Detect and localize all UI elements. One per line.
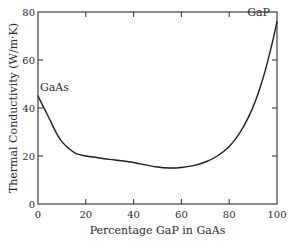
data-curve	[38, 22, 277, 168]
annotation-gap: GaP	[247, 6, 270, 19]
x-tick-label: 0	[35, 209, 41, 220]
x-axis-title: Percentage GaP in GaAs	[90, 224, 226, 237]
y-tick-label: 60	[22, 55, 35, 66]
x-tick-label: 40	[127, 209, 140, 220]
x-tick-label: 80	[223, 209, 236, 220]
x-tick-label: 20	[79, 209, 92, 220]
plot-frame	[38, 12, 277, 204]
x-tick-label: 100	[267, 209, 286, 220]
y-tick-label: 80	[22, 7, 35, 18]
y-tick-label: 40	[22, 103, 35, 114]
x-tick-label: 60	[175, 209, 188, 220]
axis-ticks	[38, 12, 277, 204]
y-axis-title: Thermal Conductivity (W/m·K)	[7, 23, 20, 193]
plot-border	[38, 12, 277, 204]
axis-tick-labels: 020406080100020406080	[22, 7, 286, 221]
annotation-gaas: GaAs	[40, 81, 69, 94]
y-tick-label: 20	[22, 151, 35, 162]
y-tick-label: 0	[29, 199, 35, 210]
thermal-conductivity-chart: 020406080100020406080 GaAs GaP Percentag…	[0, 0, 293, 241]
